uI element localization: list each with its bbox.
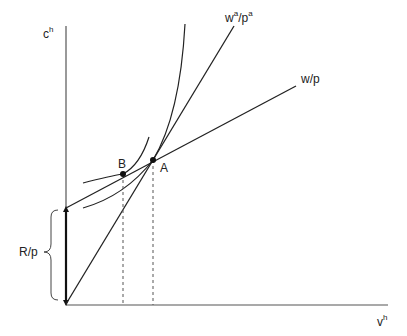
y-axis-label: ch <box>43 28 53 40</box>
point-a-label: A <box>160 162 168 174</box>
diagram-canvas <box>0 0 407 336</box>
point-a-marker <box>150 157 156 163</box>
point-b-marker <box>120 171 126 177</box>
indifference-curve-a <box>83 24 185 208</box>
budget-line-wa-pa <box>66 26 234 304</box>
budget-line-wa-pa-label: wa/pa <box>225 12 253 24</box>
budget-line-w-p-label: w/p <box>301 73 320 85</box>
point-b-label: B <box>118 158 126 170</box>
budget-line-w-p <box>66 86 296 208</box>
brace-icon <box>44 210 58 300</box>
x-axis-label: vh <box>377 316 387 328</box>
bracket-label: R/p <box>19 246 38 258</box>
